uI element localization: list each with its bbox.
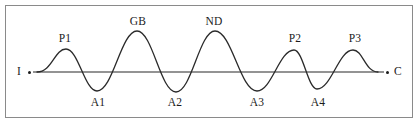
peak-label-nd: ND xyxy=(205,16,222,28)
peak-label-gb: GB xyxy=(130,16,146,28)
trough-label-a4: A4 xyxy=(311,97,325,109)
peak-label-p2: P2 xyxy=(289,33,302,45)
trough-label-a3: A3 xyxy=(250,97,264,109)
peak-label-p3: P3 xyxy=(349,33,362,45)
trough-label-a1: A1 xyxy=(91,97,105,109)
axis-start-label: I xyxy=(17,66,21,78)
peak-label-p1: P1 xyxy=(59,33,72,45)
axis-end-label: C xyxy=(394,66,402,78)
axis-end-dot xyxy=(386,71,389,74)
axis-start-dot xyxy=(28,71,31,74)
waveform-figure: I C P1 A1 GB A2 ND A3 P2 A4 P3 xyxy=(0,0,420,127)
trough-label-a2: A2 xyxy=(168,97,182,109)
